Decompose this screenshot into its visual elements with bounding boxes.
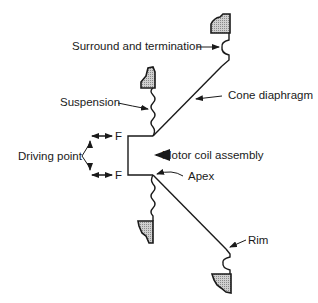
label-force-bottom: F — [115, 169, 122, 182]
label-rim: Rim — [248, 234, 268, 247]
rim-arrow — [230, 240, 246, 247]
suspension-arrow — [118, 103, 148, 109]
upper-suspension-block — [141, 67, 155, 88]
driving-point-brace — [82, 143, 90, 168]
motor-coil — [128, 136, 153, 175]
label-suspension: Suspension — [60, 96, 120, 109]
label-cone: Cone diaphragm — [228, 89, 313, 102]
upper-frame-block — [211, 14, 230, 33]
upper-surround — [222, 33, 229, 66]
upper-cone — [153, 66, 222, 136]
label-surround: Surround and termination — [72, 40, 202, 53]
cone-arrow — [196, 96, 222, 99]
lower-suspension — [151, 175, 155, 221]
lower-surround — [223, 249, 230, 274]
lower-cone — [153, 175, 226, 249]
upper-suspension — [151, 88, 155, 136]
label-motor-coil: Motor coil assembly — [162, 149, 264, 162]
apex-arrow — [157, 172, 183, 176]
label-apex: Apex — [188, 170, 214, 183]
lower-frame-block — [212, 274, 231, 293]
label-driving-point: Driving point — [18, 150, 82, 163]
lower-suspension-block — [138, 221, 153, 243]
label-force-top: F — [115, 130, 122, 143]
